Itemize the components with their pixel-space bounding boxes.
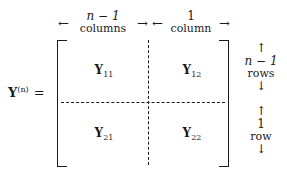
row-label-top: ↑ n − 1 rows ↓ — [238, 42, 284, 93]
row-label-bottom: ↑ 1 row ↓ — [238, 105, 284, 156]
column-left-count: n − 1 — [69, 10, 137, 23]
column-left-unit: columns — [69, 23, 137, 35]
right-arrow-icon: → — [219, 17, 230, 30]
column-label-right: ← 1 column → — [152, 10, 230, 35]
matrix-block-22: Y22 — [151, 103, 233, 165]
row-bottom-count: 1 — [257, 118, 265, 131]
column-label-left: ← n − 1 columns → — [58, 10, 148, 35]
down-arrow-icon: ↓ — [256, 80, 266, 93]
down-arrow-icon: ↓ — [256, 143, 266, 156]
column-label-right-text: 1 column — [163, 10, 219, 35]
equals-sign: = — [34, 85, 45, 100]
up-arrow-icon: ↑ — [256, 105, 266, 118]
block-21-symbol: Y21 — [95, 126, 114, 142]
block-22-symbol: Y22 — [183, 126, 202, 142]
block-11-subscript: 11 — [103, 70, 113, 79]
column-right-count: 1 — [163, 10, 219, 23]
matrix-superscript: (n) — [17, 85, 28, 94]
matrix-block-12: Y12 — [151, 40, 233, 102]
matrix-symbol: Y(n) — [8, 85, 29, 100]
up-arrow-icon: ↑ — [256, 42, 266, 55]
row-top-count: n − 1 — [244, 55, 277, 68]
column-right-unit: column — [163, 23, 219, 35]
block-11-symbol: Y11 — [95, 63, 114, 79]
block-21-subscript: 21 — [103, 133, 113, 142]
right-arrow-icon: → — [137, 17, 148, 30]
column-label-left-text: n − 1 columns — [69, 10, 137, 35]
block-12-symbol: Y12 — [183, 63, 202, 79]
left-arrow-icon: ← — [58, 17, 69, 30]
matrix-block-21: Y21 — [63, 103, 145, 165]
equation-figure: Y(n) = ← n − 1 columns → ← 1 column → Y1… — [0, 0, 287, 177]
matrix-block-11: Y11 — [63, 40, 145, 102]
partitioned-matrix: Y11 Y12 Y21 Y22 — [57, 40, 229, 165]
left-arrow-icon: ← — [152, 17, 163, 30]
block-22-subscript: 22 — [191, 133, 201, 142]
equation-left-hand-side: Y(n) = — [8, 85, 45, 100]
block-12-subscript: 12 — [191, 70, 201, 79]
